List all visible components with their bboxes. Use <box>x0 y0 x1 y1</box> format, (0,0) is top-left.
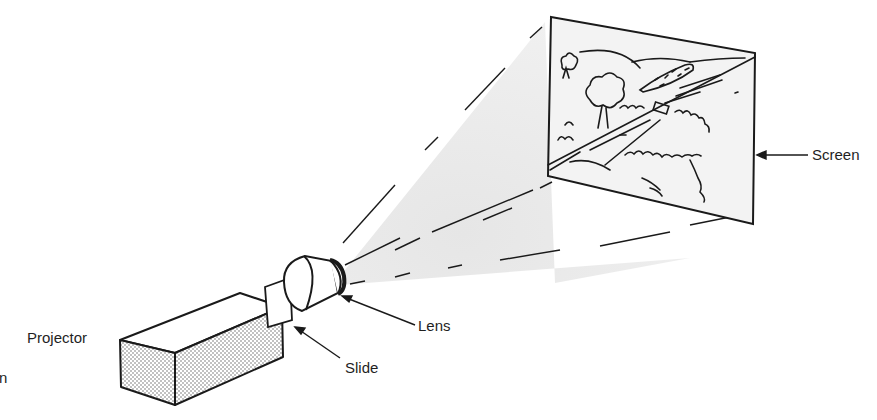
projector-diagram: Projector Slide Lens Screen n <box>0 0 877 420</box>
lens <box>284 256 344 311</box>
screen <box>548 17 755 224</box>
projector <box>120 293 283 405</box>
label-lens: Lens <box>418 318 451 333</box>
label-slide: Slide <box>345 360 378 375</box>
label-screen: Screen <box>812 147 860 162</box>
label-cutoff-fragment: n <box>0 370 7 385</box>
label-projector: Projector <box>27 330 87 345</box>
diagram-artwork <box>0 0 877 420</box>
